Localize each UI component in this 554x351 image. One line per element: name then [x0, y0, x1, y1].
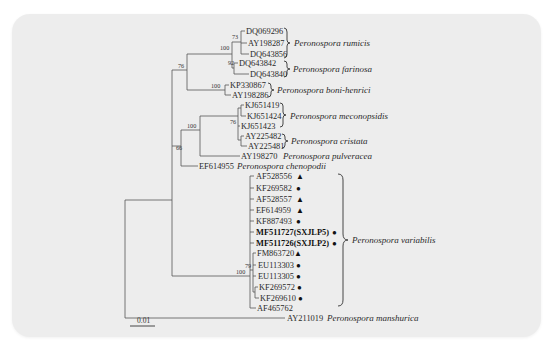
species-label: Peronospora farinosa: [292, 64, 372, 74]
circle-icon: ●: [296, 217, 301, 226]
taxon-label-highlight: MF511726(SXJLP2): [256, 239, 329, 248]
scale-bar: 0.01: [130, 316, 155, 326]
bootstrap-label: 79: [245, 262, 251, 269]
scale-bar-label: 0.01: [137, 316, 150, 325]
taxon-label: KF269572: [259, 283, 295, 292]
triangle-icon: ▲: [296, 206, 304, 215]
circle-icon: ●: [332, 228, 337, 237]
bootstrap-label: 92: [228, 59, 234, 66]
taxon-label: FM863720: [257, 249, 294, 258]
taxon-label: AY198287: [248, 39, 284, 48]
circle-icon: ●: [296, 261, 301, 270]
taxon-label: KF269582: [256, 184, 292, 193]
species-label: Peronospora meconopsidis: [289, 111, 388, 121]
triangle-icon: ▲: [294, 249, 302, 258]
taxon-label: AY198286: [232, 91, 268, 100]
taxon-label: AF465762: [257, 304, 293, 313]
taxon-label-highlight: MF511727(SXJLP5): [256, 228, 329, 237]
phylogenetic-tree: 73 100 92 100 76 76 100 66 79 100 DQ0692…: [0, 0, 554, 351]
species-label: Peronospora pulveracea: [282, 151, 372, 161]
bootstrap-label: 100: [236, 268, 245, 275]
circle-icon: ●: [298, 294, 303, 303]
taxon-label: EF614959: [256, 206, 291, 215]
circle-icon: ●: [297, 283, 302, 292]
taxon-label: EF614955: [199, 162, 234, 171]
taxon-label: EU113305: [258, 272, 294, 281]
species-label: Peronospora chenopodii: [236, 161, 326, 171]
triangle-icon: ▲: [296, 195, 304, 204]
species-label: Peronospora manshurica: [326, 313, 419, 323]
taxon-label: DQ069296: [246, 27, 283, 36]
taxon-markers: ▲ ● ▲ ▲ ● ● ● ▲ ● ● ● ●: [294, 172, 337, 303]
bootstrap-label: 100: [220, 44, 229, 51]
taxon-label: KJ651419: [245, 101, 279, 110]
taxon-label: KF887493: [256, 217, 292, 226]
taxon-label: KJ651423: [241, 122, 275, 131]
species-label: Peronospora variabilis: [351, 235, 436, 245]
bootstrap-label: 100: [187, 122, 196, 129]
species-label: Peronospora rumicis: [293, 38, 370, 48]
circle-icon: ●: [296, 272, 301, 281]
taxon-label: AY225481: [248, 142, 284, 151]
bootstrap-label: 66: [176, 144, 182, 151]
bootstrap-label: 76: [178, 62, 184, 69]
taxon-label: KF269610: [260, 294, 296, 303]
taxon-label: DQ643840: [250, 70, 287, 79]
species-label: Peronospora cristata: [290, 136, 368, 146]
taxon-label: KP330867: [230, 81, 266, 90]
circle-icon: ●: [296, 184, 301, 193]
bootstrap-label: 73: [232, 33, 238, 40]
taxon-label: AY225482: [245, 132, 281, 141]
taxon-label: EU113303: [258, 261, 294, 270]
triangle-icon: ▲: [296, 172, 304, 181]
taxon-label: DQ643842: [239, 59, 276, 68]
circle-icon: ●: [332, 239, 337, 248]
taxon-label: DQ643856: [250, 50, 287, 59]
bootstrap-label: 76: [230, 118, 236, 125]
species-label: Peronospora boni-henrici: [276, 85, 371, 95]
taxon-label: AF528557: [256, 195, 292, 204]
taxon-label: AF528556: [256, 172, 292, 181]
bootstrap-label: 100: [211, 82, 220, 89]
taxon-label: AY198270: [241, 152, 277, 161]
taxon-label: AY211019: [287, 314, 323, 323]
taxon-label: KJ651424: [247, 112, 282, 121]
